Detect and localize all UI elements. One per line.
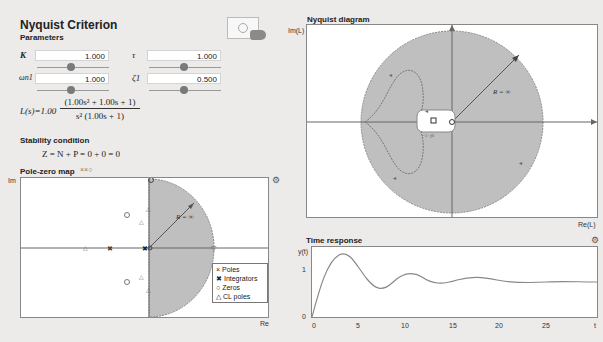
param-zeta-slider-knob[interactable] bbox=[180, 86, 188, 94]
pole-zero-y-label: Im bbox=[8, 177, 16, 184]
transfer-function-denominator: s² (1.00s + 1) bbox=[60, 111, 140, 121]
svg-text:◂: ◂ bbox=[519, 160, 522, 166]
transfer-function-numerator: (1.00s² + 1.00s + 1) bbox=[60, 97, 140, 109]
svg-text:△: △ bbox=[139, 274, 144, 280]
param-omega-slider-knob[interactable] bbox=[67, 86, 75, 94]
nyquist-title: Nyquist diagram bbox=[307, 15, 370, 24]
svg-text:△: △ bbox=[139, 219, 144, 225]
x-tick-5: 5 bbox=[356, 322, 360, 329]
pole-zero-gear-icon[interactable]: ⚙ bbox=[272, 175, 280, 185]
stability-equation: Z = N + P = 0 + 0 = 0 bbox=[42, 149, 120, 159]
svg-text:◂: ◂ bbox=[389, 72, 392, 78]
pole-zero-legend: × Poles ✖ Integrators ○ Zeros △ CL poles bbox=[212, 263, 268, 303]
time-response-plot[interactable] bbox=[311, 246, 598, 318]
stability-heading: Stability condition bbox=[20, 136, 89, 145]
param-tau-label: τ bbox=[132, 50, 135, 60]
svg-text:◂: ◂ bbox=[425, 108, 428, 114]
svg-text:△: △ bbox=[146, 206, 151, 212]
param-tau-slider-knob[interactable] bbox=[180, 63, 188, 71]
pole-zero-title: Pole-zero map bbox=[20, 167, 75, 176]
nyquist-y-label: Im(L) bbox=[288, 27, 304, 34]
nyquist-x-label: Re(L) bbox=[578, 221, 596, 228]
svg-text:✖: ✖ bbox=[107, 245, 113, 252]
svg-text:R = ∞: R = ∞ bbox=[492, 88, 511, 96]
pole-zero-plot[interactable]: R = ∞ △ △ △ △ △ ✖ ✖ ▽ × Poles ✖ Integrat… bbox=[20, 177, 269, 318]
x-axis-t-label: t bbox=[594, 322, 596, 329]
parameters-heading: Parameters bbox=[20, 33, 64, 42]
x-tick-15: 15 bbox=[449, 322, 457, 329]
y-tick-1: 1 bbox=[302, 266, 306, 273]
pole-zero-x-label: Re bbox=[260, 320, 269, 327]
param-zeta-label: ζ1 bbox=[132, 73, 140, 83]
param-tau-input[interactable]: 1.000 bbox=[147, 50, 221, 61]
param-zeta-input[interactable]: 0.500 bbox=[147, 73, 221, 84]
svg-text:◂: ◂ bbox=[393, 175, 396, 181]
legend-integrators: ✖ Integrators bbox=[216, 274, 264, 283]
y-tick-0: 0 bbox=[302, 313, 306, 320]
legend-poles: × Poles bbox=[216, 265, 264, 274]
transfer-function-lhs: L(s)=1.00 bbox=[20, 106, 56, 116]
time-response-title: Time response bbox=[306, 236, 362, 245]
time-response-y-label: y(t) bbox=[298, 248, 308, 255]
svg-text:△: △ bbox=[146, 287, 151, 293]
param-k-label: K bbox=[20, 50, 26, 60]
svg-text:R = ∞: R = ∞ bbox=[175, 213, 194, 221]
nyquist-plot[interactable]: R = ∞ −1+j0 ◂ ◂ ◂ ◂ bbox=[306, 24, 598, 218]
svg-text:△: △ bbox=[83, 245, 88, 251]
svg-text:−1+j0: −1+j0 bbox=[422, 133, 435, 138]
x-tick-20: 20 bbox=[495, 322, 503, 329]
pole-zero-symbols: ××○ bbox=[80, 166, 92, 173]
param-omega-input[interactable]: 1.000 bbox=[35, 73, 109, 84]
time-response-gear-icon[interactable]: ⚙ bbox=[591, 235, 599, 245]
param-k-slider-knob[interactable] bbox=[67, 63, 75, 71]
svg-text:✖: ✖ bbox=[142, 245, 148, 252]
legend-cl-poles: △ CL poles bbox=[216, 292, 264, 301]
x-tick-0: 0 bbox=[312, 322, 316, 329]
x-tick-10: 10 bbox=[401, 322, 409, 329]
param-omega-label: ωn1 bbox=[19, 73, 33, 82]
circle-icon bbox=[238, 23, 248, 33]
param-k-input[interactable]: 1.000 bbox=[35, 50, 109, 61]
x-tick-25: 25 bbox=[542, 322, 550, 329]
legend-zeros: ○ Zeros bbox=[216, 283, 264, 292]
app-title: Nyquist Criterion bbox=[20, 18, 117, 32]
hand-pointer-icon bbox=[250, 30, 266, 40]
